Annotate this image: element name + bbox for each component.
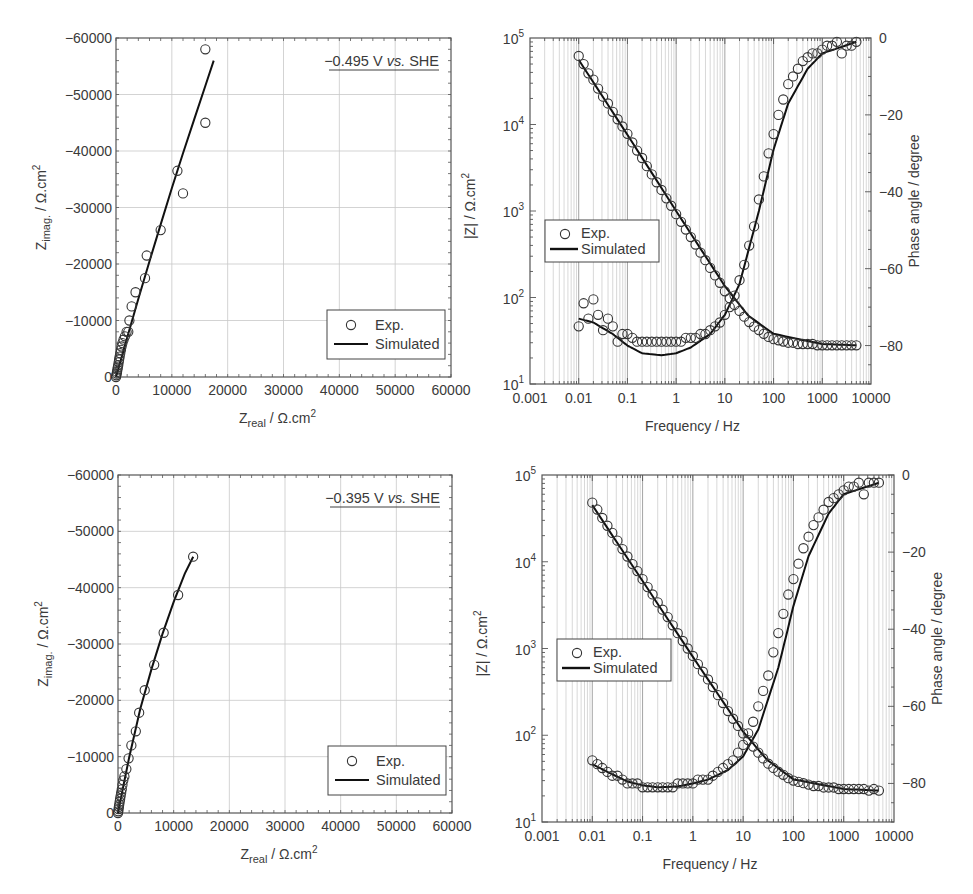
phase-exp-point (593, 310, 602, 319)
x-tick-label: 40000 (320, 382, 359, 398)
y-tick-exponent: 2 (530, 725, 536, 736)
y-right-axis-label: Phase angle / degree (906, 134, 922, 267)
y-right-tick-label: −60 (902, 698, 926, 714)
y-right-tick-label: −80 (902, 775, 926, 791)
y-axis-label-part: 2 (33, 601, 44, 607)
y-axis-label: |Z| / Ω.cm2 (472, 610, 490, 677)
potential-annotation-part: SHE (405, 53, 439, 69)
y-tick-label: 102 (503, 288, 525, 307)
y-tick-exponent: 3 (530, 639, 536, 650)
y-axis-label: Zimag. / Ω.cm2 (31, 164, 52, 250)
y-right-tick-label: −80 (879, 338, 903, 354)
x-tick-label: 20000 (210, 818, 249, 834)
x-tick-label: 10000 (852, 390, 891, 406)
x-tick-label: 60000 (432, 382, 471, 398)
y-right-tick-label: −40 (902, 621, 926, 637)
y-right-tick-label: −20 (902, 544, 926, 560)
x-axis-label: Zreal / Ω.cm2 (239, 408, 317, 429)
y-tick-label: −40000 (67, 580, 114, 596)
y-tick-base: 10 (515, 468, 531, 484)
nyquist-plot-top: 01000020000300004000050000600000−10000−2… (31, 30, 471, 429)
potential-annotation-part: −0.495 V (324, 53, 386, 69)
y-axis-label-part: 2 (31, 164, 42, 170)
y-tick-exponent: 4 (518, 115, 524, 126)
bode-plot-top: 0.0010.010.11101001000100001011021031041… (460, 28, 922, 434)
phase-exp-point (799, 544, 808, 553)
potential-annotation-part: −0.395 V (325, 490, 387, 506)
x-tick-label: 100 (762, 390, 786, 406)
x-axis-label: Frequency / Hz (663, 856, 758, 872)
simulated-line (118, 557, 193, 813)
x-tick-label: 0.01 (579, 828, 606, 844)
y-axis-label-sup: 2 (472, 610, 483, 616)
exp-data-point (201, 45, 210, 54)
y-tick-exponent: 4 (530, 552, 536, 563)
y-tick-label: 103 (515, 639, 537, 658)
y-tick-label: 105 (515, 465, 537, 484)
y-tick-exponent: 5 (518, 28, 524, 39)
x-tick-label: 10000 (154, 818, 193, 834)
y-tick-base: 10 (503, 377, 519, 393)
x-axis-label-part: 2 (312, 844, 318, 855)
phase-exp-point (759, 686, 768, 695)
x-tick-label: 50000 (376, 382, 415, 398)
legend-exp-label: Exp. (581, 225, 610, 241)
x-tick-label: 60000 (433, 818, 472, 834)
legend: Exp.Simulated (327, 310, 445, 359)
legend: Exp.Simulated (557, 639, 671, 681)
x-tick-label: 30000 (266, 818, 305, 834)
y-tick-base: 10 (503, 118, 519, 134)
y-tick-label: 102 (515, 725, 537, 744)
x-tick-label: 0.01 (565, 390, 592, 406)
x-tick-label: 10000 (875, 828, 914, 844)
y-tick-exponent: 1 (530, 812, 536, 823)
phase-exp-point (779, 95, 788, 104)
y-axis-label-part: / Ω.cm (35, 607, 51, 652)
phase-exp-point (579, 299, 588, 308)
y-tick-label: −60000 (65, 30, 112, 46)
y-right-tick-label: 0 (879, 30, 887, 46)
y-right-tick-label: −20 (879, 107, 903, 123)
y-tick-exponent: 2 (518, 288, 524, 299)
y-axis-label: |Z| / Ω.cm2 (460, 173, 478, 240)
y-axis-label-main: |Z| / Ω.cm (462, 179, 478, 240)
legend-exp-label: Exp. (376, 753, 405, 769)
potential-annotation-part: SHE (406, 490, 440, 506)
x-tick-label: 0.1 (618, 390, 638, 406)
legend-simulated-label: Simulated (593, 660, 657, 676)
x-axis-label: Zreal / Ω.cm2 (240, 844, 318, 865)
phase-exp-point (859, 490, 868, 499)
y-axis-label-part: imag. (40, 215, 52, 242)
x-tick-label: 1000 (807, 390, 838, 406)
x-tick-label: 10 (717, 390, 733, 406)
x-axis-label: Frequency / Hz (645, 418, 740, 434)
y-tick-label: −50000 (67, 523, 114, 539)
y-tick-label: 104 (503, 115, 525, 134)
y-tick-label: −20000 (67, 692, 114, 708)
potential-annotation: −0.495 V vs. SHE (324, 53, 439, 69)
y-tick-base: 10 (503, 204, 519, 220)
y-tick-exponent: 5 (530, 465, 536, 476)
y-axis-label: Zimag. / Ω.cm2 (33, 601, 54, 687)
phase-exp-point (749, 717, 758, 726)
x-tick-label: 40000 (321, 818, 360, 834)
y-tick-label: 104 (515, 552, 537, 571)
legend-simulated-label: Simulated (375, 336, 439, 352)
y-tick-label: −20000 (65, 256, 112, 272)
bode-plot-bottom: 0.0010.010.11101001000100001011021031041… (472, 465, 945, 872)
exp-data-point (127, 302, 136, 311)
y-axis-label-sup: 2 (460, 173, 471, 179)
x-tick-label: 10 (735, 828, 751, 844)
y-right-tick-label: −40 (879, 184, 903, 200)
x-tick-label: 20000 (208, 382, 247, 398)
exp-data-point (131, 288, 140, 297)
y-tick-base: 10 (515, 642, 531, 658)
x-tick-label: 1 (672, 390, 680, 406)
exp-data-point (201, 118, 210, 127)
x-axis-label-part: real (247, 417, 265, 429)
y-right-tick-label: −60 (879, 261, 903, 277)
nyquist-plot-bottom: 01000020000300004000050000600000−10000−2… (33, 467, 472, 865)
figure-canvas: 01000020000300004000050000600000−10000−2… (0, 0, 973, 894)
y-tick-base: 10 (515, 555, 531, 571)
x-tick-label: 50000 (377, 818, 416, 834)
